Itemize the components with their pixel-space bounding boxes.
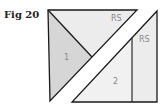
piece-rs-right-label: RS [139, 35, 150, 44]
piece-1-label: 1 [64, 53, 69, 62]
piece-2-label: 2 [113, 77, 118, 86]
quilt-block-diagram: 1 RS 2 RS [0, 0, 168, 111]
piece-rs-top-label: RS [111, 14, 122, 23]
